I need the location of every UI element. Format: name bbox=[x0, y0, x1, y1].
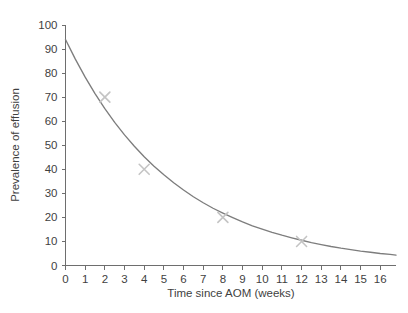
x-axis-tick-label: 2 bbox=[102, 273, 108, 285]
data-point-marker bbox=[139, 164, 149, 174]
y-axis-tick-label: 60 bbox=[45, 115, 58, 127]
x-axis-tick-label: 9 bbox=[239, 273, 245, 285]
x-axis-tick-label: 11 bbox=[276, 273, 288, 285]
y-axis-tick-label: 90 bbox=[45, 43, 58, 55]
y-axis-tick-label: 100 bbox=[38, 19, 57, 31]
data-point-marker bbox=[100, 92, 110, 102]
y-axis-tick-marks bbox=[62, 25, 66, 266]
x-axis-tick-label: 6 bbox=[180, 273, 186, 285]
x-axis-tick-marks bbox=[66, 266, 381, 270]
y-axis-tick-label: 50 bbox=[45, 139, 58, 151]
x-axis-tick-label: 16 bbox=[374, 273, 387, 285]
y-axis-tick-labels: 0102030405060708090100 bbox=[38, 19, 57, 272]
data-point-marker bbox=[218, 212, 228, 222]
y-axis-tick-label: 20 bbox=[45, 211, 58, 223]
x-axis-tick-label: 5 bbox=[161, 273, 167, 285]
chart-container: 0102030405060708090100 01234567891011121… bbox=[0, 0, 408, 313]
x-axis-tick-label: 7 bbox=[200, 273, 206, 285]
x-axis-tick-label: 3 bbox=[121, 273, 127, 285]
effusion-prevalence-chart: 0102030405060708090100 01234567891011121… bbox=[0, 0, 408, 313]
data-point-markers bbox=[100, 92, 307, 246]
x-axis-tick-label: 4 bbox=[141, 273, 148, 285]
x-axis-tick-label: 12 bbox=[295, 273, 308, 285]
x-axis-tick-label: 14 bbox=[335, 273, 348, 285]
x-axis-tick-label: 15 bbox=[354, 273, 367, 285]
y-axis-tick-label: 0 bbox=[51, 260, 57, 272]
x-axis-tick-label: 1 bbox=[82, 273, 88, 285]
x-axis-tick-label: 0 bbox=[62, 273, 68, 285]
x-axis-title: Time since AOM (weeks) bbox=[167, 287, 295, 299]
x-axis-tick-label: 8 bbox=[220, 273, 226, 285]
y-axis-tick-label: 70 bbox=[45, 91, 58, 103]
y-axis-tick-label: 80 bbox=[45, 67, 58, 79]
decay-curve-line bbox=[66, 39, 397, 255]
x-axis-tick-labels: 012345678910111213141516 bbox=[62, 273, 386, 285]
y-axis-tick-label: 30 bbox=[45, 187, 58, 199]
x-axis-tick-label: 10 bbox=[256, 273, 269, 285]
y-axis-title: Prevalence of effusion bbox=[9, 88, 21, 202]
y-axis-tick-label: 10 bbox=[45, 235, 58, 247]
x-axis-tick-label: 13 bbox=[315, 273, 328, 285]
y-axis-tick-label: 40 bbox=[45, 163, 58, 175]
